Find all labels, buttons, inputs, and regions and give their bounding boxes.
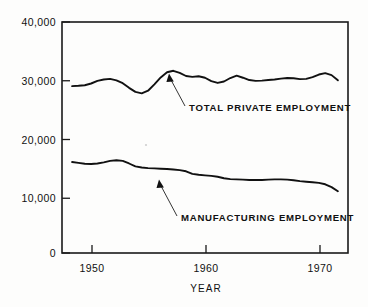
total-private-employment-arrowhead bbox=[166, 74, 173, 83]
manufacturing-employment-label: MANUFACTURING EMPLOYMENT bbox=[181, 212, 354, 223]
x-tick-label-1960: 1960 bbox=[194, 262, 219, 274]
y-tick-label-30000: 30,000 bbox=[21, 75, 56, 87]
manufacturing-employment-annotation: MANUFACTURING EMPLOYMENT bbox=[157, 180, 355, 224]
x-tick-label-1950: 1950 bbox=[80, 262, 105, 274]
x-axis-title: YEAR bbox=[190, 283, 222, 294]
manufacturing-employment-arrowhead bbox=[157, 180, 164, 189]
series-line-total-private-employment bbox=[72, 71, 338, 94]
x-axis-ticks bbox=[92, 245, 320, 253]
y-tick-label-10000: 10,000 bbox=[21, 192, 56, 204]
scan-speck bbox=[145, 144, 147, 146]
total-private-employment-annotation: TOTAL PRIVATE EMPLOYMENT bbox=[166, 74, 351, 114]
chart-canvas: 40,000 30,000 20,000 10,000 0 1950 1960 … bbox=[0, 0, 368, 307]
x-tick-label-1970: 1970 bbox=[308, 262, 333, 274]
series-line-manufacturing-employment bbox=[72, 160, 338, 191]
total-private-employment-label: TOTAL PRIVATE EMPLOYMENT bbox=[189, 102, 351, 113]
y-tick-label-0: 0 bbox=[50, 247, 56, 259]
y-axis-ticks bbox=[62, 22, 70, 253]
y-tick-label-20000: 20,000 bbox=[21, 134, 56, 146]
y-tick-label-40000: 40,000 bbox=[21, 16, 56, 28]
employment-chart-figure: 40,000 30,000 20,000 10,000 0 1950 1960 … bbox=[0, 0, 368, 307]
